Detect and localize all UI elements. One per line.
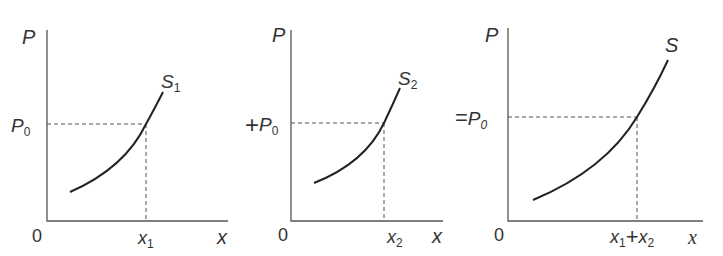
quantity-label: x2 — [386, 227, 403, 250]
x-axis-label: x — [431, 225, 443, 247]
origin-label: 0 — [494, 225, 504, 245]
origin-label: 0 — [32, 226, 42, 246]
supply-diagram: P 0 x S1 P0 x1 P 0 x S2 +P0 x2 P 0 x S =… — [0, 0, 723, 256]
price-label: =P0 — [455, 105, 488, 132]
curve-label: S2 — [398, 68, 418, 92]
origin-label: 0 — [278, 225, 288, 245]
panel-market: P 0 x S =P0 x1+x2 — [455, 24, 703, 250]
y-axis-label: P — [22, 26, 36, 48]
quantity-label: x1 — [137, 228, 154, 251]
curve-label: S — [665, 34, 679, 56]
x-axis-label: x — [687, 226, 697, 248]
market-supply-curve — [533, 60, 668, 200]
price-label: +P0 — [245, 111, 279, 138]
curve-label: S1 — [161, 71, 181, 95]
panel-s1: P 0 x S1 P0 x1 — [11, 26, 228, 251]
supply-curve-s1 — [70, 92, 163, 192]
supply-curve-s2 — [314, 88, 400, 183]
y-axis-label: P — [485, 24, 499, 46]
axes — [47, 30, 228, 221]
axes — [508, 28, 703, 221]
panel-s2: P 0 x S2 +P0 x2 — [245, 24, 443, 250]
price-label: P0 — [11, 115, 31, 139]
y-axis-label: P — [272, 24, 286, 46]
quantity-label: x1+x2 — [609, 224, 655, 250]
axes — [291, 30, 443, 221]
x-axis-label: x — [216, 226, 228, 248]
